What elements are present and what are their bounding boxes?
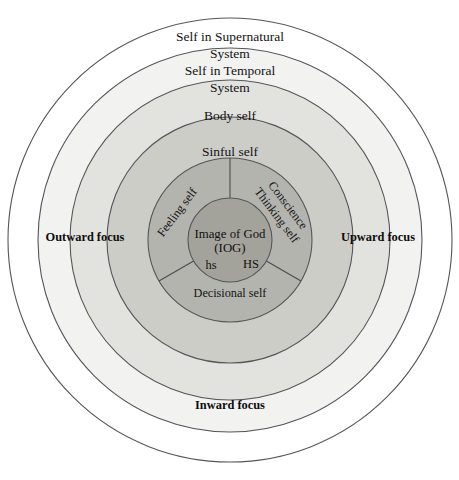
label-hs-lower: hs bbox=[205, 258, 216, 272]
label-inward-focus: Inward focus bbox=[195, 398, 265, 412]
label-image-of-god: Image of God bbox=[194, 227, 266, 241]
concentric-self-diagram: Self in Supernatural System Self in Temp… bbox=[0, 0, 459, 480]
label-supernatural-line2: System bbox=[210, 46, 250, 61]
label-temporal-line2: System bbox=[210, 80, 250, 95]
label-iog-abbrev: (IOG) bbox=[214, 241, 245, 255]
label-decisional-self: Decisional self bbox=[194, 286, 268, 300]
label-outward-focus: Outward focus bbox=[46, 230, 125, 244]
label-upward-focus: Upward focus bbox=[341, 230, 415, 244]
label-temporal-line1: Self in Temporal bbox=[185, 63, 276, 78]
label-sinful-self: Sinful self bbox=[202, 144, 258, 159]
label-body-self: Body self bbox=[204, 108, 257, 123]
label-hs-upper: HS bbox=[243, 257, 259, 271]
label-supernatural-line1: Self in Supernatural bbox=[176, 29, 284, 44]
diagram-canvas: Self in Supernatural System Self in Temp… bbox=[0, 0, 459, 480]
